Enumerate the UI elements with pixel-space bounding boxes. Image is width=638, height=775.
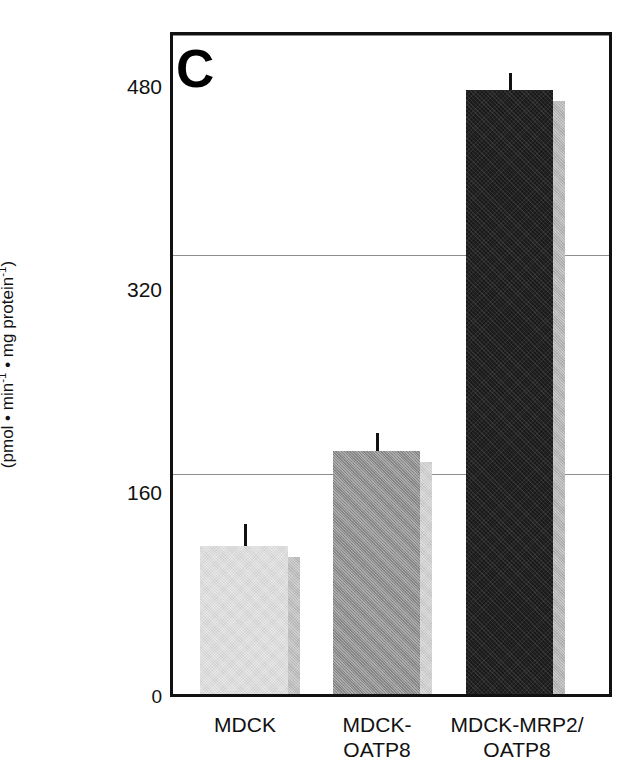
bar-mdck[interactable] [200, 546, 288, 694]
y-axis-title-text: [3H]E217βG Transport (pmol • min-1 • mg … [0, 261, 19, 468]
y-tick-label-0: 0 [100, 687, 162, 706]
bar-group-mdck[interactable] [200, 35, 330, 694]
gridline-480 [173, 35, 609, 36]
y-title-pmol-min: (pmol • min [0, 383, 17, 468]
y-axis-title-line2: (pmol • min-1 • mg protein-1) [0, 261, 19, 468]
x-tick-label-mdck-mrp2-oatp8: MDCK-MRP2/ OATP8 [437, 712, 597, 762]
panel-label: C [176, 42, 213, 95]
bar-group-mdck-mrp2-oatp8[interactable] [466, 35, 596, 694]
x-tick-label-mdck: MDCK [180, 712, 310, 737]
bar-chart-figure: [3H]E217βG Transport (pmol • min-1 • mg … [0, 0, 638, 775]
plot-inner-surface [173, 35, 609, 694]
x-tick-label-mdck-oatp8: MDCK- OATP8 [312, 712, 442, 762]
error-bar-mdck-oatp8 [376, 433, 379, 451]
y-tick-label-320: 320 [100, 279, 162, 300]
y-tick-label-480: 480 [100, 76, 162, 97]
bar-side-mdck-mrp2-oatp8 [553, 101, 565, 694]
y-tick-label-160: 160 [100, 482, 162, 503]
bar-group-mdck-oatp8[interactable] [333, 35, 463, 694]
y-title-mg-protein: • mg protein [0, 277, 17, 373]
bar-mdck-mrp2-oatp8[interactable] [466, 90, 553, 694]
bar-side-mdck [288, 557, 300, 694]
error-bar-mdck [244, 524, 247, 546]
y-title-superscript-minus1-b: -1 [0, 267, 8, 277]
bar-mdck-oatp8[interactable] [333, 451, 420, 694]
error-bar-mdck-mrp2-oatp8 [509, 73, 512, 89]
y-title-superscript-minus1-a: -1 [0, 373, 8, 383]
plot-area [170, 32, 612, 697]
y-title-close-paren: ) [0, 261, 17, 267]
bar-side-mdck-oatp8 [420, 462, 432, 694]
